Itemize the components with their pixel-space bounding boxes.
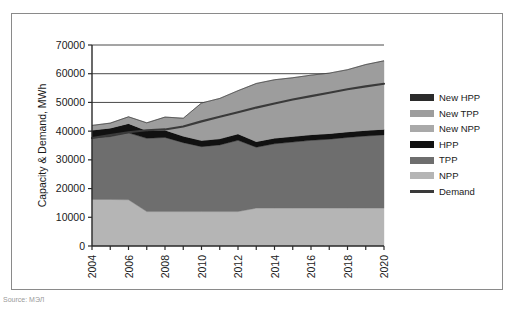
- x-axis-tick-label: 2008: [159, 255, 171, 279]
- legend-item-label: New HPP: [439, 93, 480, 103]
- legend-swatch-icon: [410, 125, 434, 132]
- legend-item-label: Demand: [439, 187, 475, 197]
- y-axis-tick-label: 50000: [56, 96, 85, 108]
- y-axis-tick-label: 30000: [56, 153, 85, 165]
- y-axis-tick-label: 10000: [56, 211, 85, 223]
- legend-swatch-icon: [410, 141, 434, 148]
- y-axis-title: Capacity & Demand, MWh: [36, 83, 48, 207]
- x-axis-tick-label: 2014: [269, 255, 281, 279]
- x-axis-tick-label: 2006: [123, 255, 135, 279]
- legend-swatch-icon: [410, 110, 434, 117]
- legend-item[interactable]: New NPP: [410, 121, 519, 137]
- legend-item-label: New NPP: [439, 124, 480, 134]
- legend-swatch-icon: [410, 190, 434, 193]
- legend-item[interactable]: NPP: [410, 168, 519, 184]
- area-series-tpp: [92, 133, 384, 212]
- x-axis-tick-label: 2020: [378, 255, 390, 279]
- y-axis-tick-label: 70000: [56, 39, 85, 51]
- legend-item[interactable]: New HPP: [410, 90, 519, 106]
- x-axis-tick-label: 2016: [305, 255, 317, 279]
- legend-item-label: New TPP: [439, 109, 479, 119]
- legend-item-label: HPP: [439, 140, 459, 150]
- legend-item-label: NPP: [439, 171, 459, 181]
- legend-swatch-icon: [410, 172, 434, 179]
- legend-item[interactable]: New TPP: [410, 106, 519, 122]
- y-axis-tick-label: 40000: [56, 125, 85, 137]
- x-axis-tick-label: 2012: [232, 255, 244, 279]
- legend-item[interactable]: HPP: [410, 137, 519, 153]
- legend-item-label: TPP: [439, 155, 457, 165]
- chart-figure: 0100002000030000400005000060000700002004…: [11, 13, 503, 290]
- figure-caption: Source: МЭЛ: [3, 296, 303, 308]
- legend-item[interactable]: TPP: [410, 152, 519, 168]
- y-axis-tick-label: 0: [79, 240, 85, 252]
- chart-legend: New HPPNew TPPNew NPPHPPTPPNPPDemand: [410, 90, 519, 199]
- legend-item[interactable]: Demand: [410, 184, 519, 200]
- y-axis-tick-label: 20000: [56, 182, 85, 194]
- legend-swatch-icon: [410, 94, 434, 101]
- x-axis-tick-label: 2010: [196, 255, 208, 279]
- legend-swatch-icon: [410, 157, 434, 164]
- x-axis-tick-label: 2004: [86, 255, 98, 279]
- x-axis-tick-label: 2018: [342, 255, 354, 279]
- y-axis-tick-label: 60000: [56, 67, 85, 79]
